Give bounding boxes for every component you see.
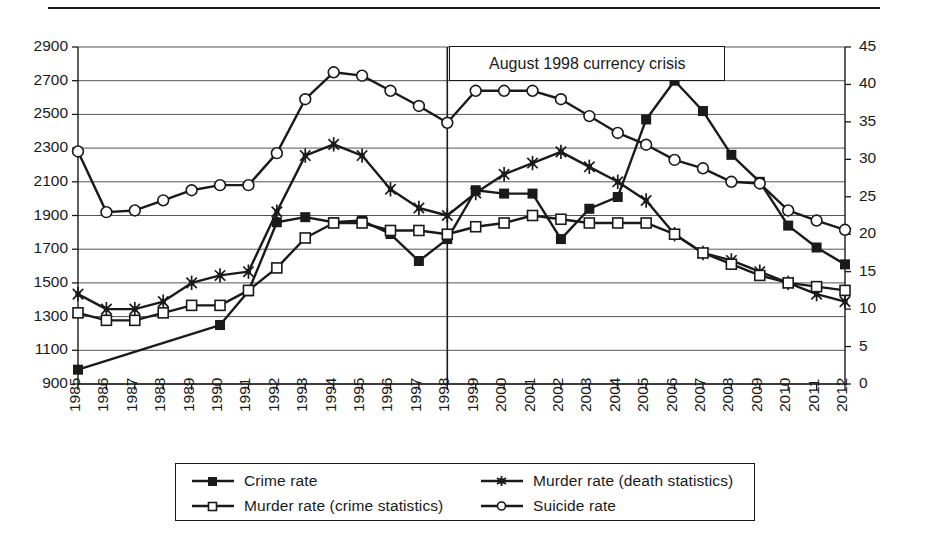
legend-entry-suicide-rate[interactable]: Suicide rate: [475, 497, 754, 515]
x-axis-tick-label: 1986: [94, 378, 112, 412]
data-point-open-circle: [158, 195, 169, 206]
marker-filled-square: [641, 114, 651, 124]
x-axis-tick-label: 2012: [833, 378, 851, 412]
legend-row-2: Murder rate (crime statistics) Suicide r…: [176, 493, 754, 518]
data-point-open-circle: [612, 128, 623, 139]
data-point-open-circle: [271, 148, 282, 159]
marker-open-circle: [413, 101, 424, 112]
marker-asterisk-core: [587, 164, 592, 169]
legend-entry-crime-rate[interactable]: Crime rate: [176, 472, 475, 490]
data-point-open-square: [499, 218, 509, 228]
marker-open-square: [584, 218, 594, 228]
marker-asterisk-core: [132, 307, 137, 312]
x-axis-tick-label: 2003: [577, 378, 595, 412]
data-point-open-circle: [385, 85, 396, 96]
marker-asterisk-core: [644, 198, 649, 203]
annotation-callout: August 1998 currency crisis: [449, 46, 725, 81]
marker-open-circle: [783, 205, 794, 216]
marker-open-circle: [300, 94, 311, 105]
data-point-open-circle: [811, 215, 822, 226]
legend-entry-murder-rate-crime[interactable]: Murder rate (crime statistics): [176, 497, 475, 515]
x-axis-tick-label: 1994: [322, 378, 340, 412]
marker-filled-square: [726, 150, 736, 160]
marker-open-square: [528, 211, 538, 221]
data-point-open-circle: [129, 205, 140, 216]
data-point-open-circle: [357, 70, 368, 81]
marker-open-circle: [129, 205, 140, 216]
right-axis-tick-label: 40: [859, 74, 876, 92]
marker-asterisk-core: [530, 160, 535, 165]
marker-open-square: [101, 315, 111, 325]
right-axis-tick-label: 45: [859, 37, 876, 55]
data-point-filled-square: [73, 365, 83, 375]
left-axis-tick-label: 1900: [6, 206, 68, 224]
x-axis-tick-label: 2009: [748, 378, 766, 412]
data-point-open-square: [300, 233, 310, 243]
right-axis-tick-label: 5: [859, 337, 868, 355]
data-point-filled-square: [499, 189, 509, 199]
marker-asterisk-core: [445, 213, 450, 218]
data-point-open-circle: [442, 117, 453, 128]
legend-marker-asterisk: [479, 474, 525, 488]
data-point-open-square: [670, 229, 680, 239]
marker-open-square: [840, 285, 850, 295]
data-point-open-circle: [584, 111, 595, 122]
left-axis-tick-label: 2900: [6, 37, 68, 55]
data-point-asterisk: [328, 137, 338, 151]
marker-asterisk-core: [416, 205, 421, 210]
marker-open-circle: [726, 176, 737, 187]
marker-open-circle: [271, 148, 282, 159]
left-axis-tick-label: 1100: [6, 340, 68, 358]
marker-open-square: [272, 263, 282, 273]
data-point-asterisk: [527, 156, 537, 170]
x-axis-tick-label: 1990: [208, 378, 226, 412]
x-axis-tick-label: 2002: [549, 378, 567, 412]
data-point-open-square: [329, 218, 339, 228]
left-axis-tick-label: 2700: [6, 71, 68, 89]
marker-open-circle: [499, 85, 510, 96]
data-point-open-square: [73, 308, 83, 318]
x-axis-tick-label: 1997: [407, 378, 425, 412]
marker-open-circle: [186, 185, 197, 196]
marker-open-square: [499, 218, 509, 228]
marker-filled-square: [556, 234, 566, 244]
marker-open-circle: [556, 94, 567, 105]
data-point-filled-square: [783, 221, 793, 231]
data-point-filled-square: [698, 106, 708, 116]
marker-open-square: [158, 308, 168, 318]
data-point-open-circle: [328, 67, 339, 78]
x-axis-tick-label: 1996: [378, 378, 396, 412]
right-axis-tick-label: 35: [859, 112, 876, 130]
marker-open-circle: [243, 180, 254, 191]
marker-filled-square: [584, 204, 594, 214]
legend-label-murder-rate-crime: Murder rate (crime statistics): [244, 497, 443, 515]
marker-open-square: [442, 229, 452, 239]
left-axis-tick-label: 1300: [6, 307, 68, 325]
marker-open-square: [187, 300, 197, 310]
marker-open-square: [243, 285, 253, 295]
marker-open-square: [357, 218, 367, 228]
marker-asterisk-core: [161, 299, 166, 304]
right-axis-tick-label: 15: [859, 262, 876, 280]
marker-open-square: [556, 214, 566, 224]
chart-legend: Crime rate Murder rate (death statistics…: [175, 463, 755, 521]
legend-entry-murder-rate-death[interactable]: Murder rate (death statistics): [475, 472, 754, 490]
marker-filled-square: [499, 189, 509, 199]
series-1: [73, 76, 850, 375]
legend-marker-open-circle: [479, 499, 525, 513]
marker-asterisk-core: [502, 172, 507, 177]
marker-filled-square: [698, 106, 708, 116]
marker-open-circle: [470, 85, 481, 96]
data-point-open-circle: [726, 176, 737, 187]
x-axis-tick-label: 1992: [265, 378, 283, 412]
data-point-open-circle: [215, 180, 226, 191]
marker-filled-square: [528, 189, 538, 199]
marker-open-circle: [754, 178, 765, 189]
data-point-open-square: [272, 263, 282, 273]
marker-open-circle: [811, 215, 822, 226]
data-point-open-circle: [300, 94, 311, 105]
data-point-open-square: [584, 218, 594, 228]
x-axis-tick-label: 1988: [151, 378, 169, 412]
data-point-open-square: [130, 315, 140, 325]
marker-open-square: [385, 225, 395, 235]
